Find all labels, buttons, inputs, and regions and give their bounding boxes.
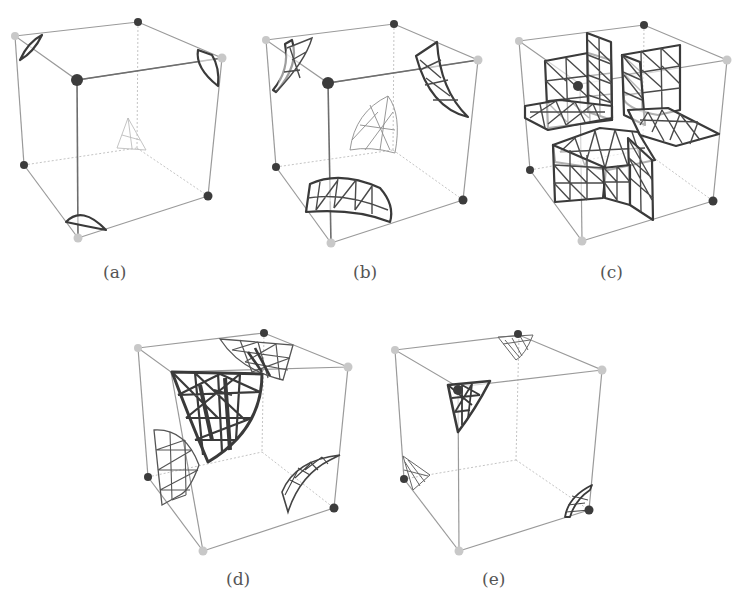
panel-b-cube bbox=[262, 20, 483, 248]
surface-patch bbox=[20, 35, 42, 60]
panel-label-b: (b) bbox=[353, 262, 377, 282]
surface-patch bbox=[403, 456, 430, 490]
panel-label-e: (e) bbox=[482, 569, 505, 589]
surface-patch bbox=[273, 38, 312, 92]
panel-label-d: (d) bbox=[226, 569, 250, 589]
panel-label-a: (a) bbox=[103, 262, 126, 282]
figure bbox=[0, 0, 735, 600]
mesh-sheet bbox=[525, 100, 612, 130]
panel-e-cube bbox=[391, 330, 607, 556]
surface-patch bbox=[448, 381, 490, 432]
panel-c-cube bbox=[515, 21, 732, 246]
panel-d-cube bbox=[134, 329, 353, 556]
surface-patch bbox=[416, 42, 468, 117]
panel-label-c: (c) bbox=[600, 262, 623, 282]
surface-patch bbox=[350, 96, 397, 153]
panel-a-cube bbox=[11, 18, 227, 243]
surface-patch bbox=[66, 215, 106, 230]
surface-patch bbox=[306, 178, 391, 222]
surface-patch bbox=[282, 455, 340, 512]
surface-patch bbox=[117, 118, 146, 150]
